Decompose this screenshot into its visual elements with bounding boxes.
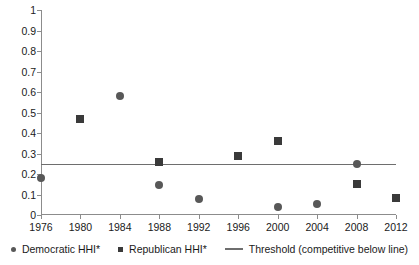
x-axis-tick <box>120 215 121 219</box>
y-axis-tick-label: 0.8 <box>21 46 36 57</box>
x-axis-tick <box>159 215 160 219</box>
y-axis-tick <box>37 92 41 93</box>
y-axis-tick-label: 0.3 <box>21 148 36 159</box>
legend-item-label: Threshold (competitive below line) <box>249 243 408 255</box>
x-axis-tick-label: 2004 <box>305 222 328 233</box>
y-axis-tick <box>37 113 41 114</box>
y-axis-tick <box>37 72 41 73</box>
data-point <box>313 200 321 208</box>
data-point <box>392 194 400 202</box>
data-point <box>234 152 242 160</box>
y-axis-tick-label: 0.7 <box>21 66 36 77</box>
x-axis-tick-label: 1984 <box>108 222 131 233</box>
plot-area: 00.10.20.30.40.50.60.70.80.91 1976198019… <box>41 10 396 215</box>
y-axis-tick-label: 0.5 <box>21 107 36 118</box>
y-axis-tick <box>37 154 41 155</box>
legend-circle-icon <box>11 247 16 252</box>
y-axis-tick <box>37 31 41 32</box>
y-axis-tick-label: 1 <box>30 5 36 16</box>
y-axis-tick <box>37 195 41 196</box>
y-axis-tick <box>37 10 41 11</box>
x-axis-tick <box>396 215 397 219</box>
x-axis-tick-label: 1988 <box>148 222 171 233</box>
x-axis-tick-label: 2012 <box>384 222 407 233</box>
legend-line-icon <box>225 248 243 250</box>
x-axis-tick-label: 1976 <box>29 222 52 233</box>
y-axis-tick-label: 0.4 <box>21 128 36 139</box>
y-axis-tick-label: 0.2 <box>21 169 36 180</box>
y-axis-tick <box>37 51 41 52</box>
chart-legend: Democratic HHI*Republican HHI*Threshold … <box>0 238 419 260</box>
scatter-chart: 00.10.20.30.40.50.60.70.80.91 1976198019… <box>0 0 419 265</box>
x-axis-tick <box>199 215 200 219</box>
data-point <box>274 137 282 145</box>
threshold-line <box>41 164 396 165</box>
y-axis-tick-label: 0 <box>30 210 36 221</box>
legend-item: Threshold (competitive below line) <box>225 243 408 255</box>
x-axis-tick <box>278 215 279 219</box>
y-axis-tick <box>37 133 41 134</box>
data-point <box>155 181 163 189</box>
x-axis-tick-label: 1996 <box>227 222 250 233</box>
x-axis-tick-label: 2000 <box>266 222 289 233</box>
data-point <box>353 180 361 188</box>
x-axis-tick <box>238 215 239 219</box>
legend-item: Democratic HHI* <box>11 243 100 255</box>
x-axis-tick <box>357 215 358 219</box>
y-axis-line <box>41 10 42 215</box>
data-point <box>37 174 45 182</box>
y-axis-tick-label: 0.1 <box>21 189 36 200</box>
x-axis-tick-label: 1980 <box>69 222 92 233</box>
legend-item: Republican HHI* <box>118 243 207 255</box>
data-point <box>155 158 163 166</box>
y-axis-tick-label: 0.6 <box>21 87 36 98</box>
x-axis-tick-label: 1992 <box>187 222 210 233</box>
y-axis-tick-label: 0.9 <box>21 25 36 36</box>
x-axis-tick-label: 2008 <box>345 222 368 233</box>
x-axis-tick <box>80 215 81 219</box>
data-point <box>76 115 84 123</box>
legend-item-label: Democratic HHI* <box>22 243 100 255</box>
data-point <box>274 203 282 211</box>
legend-square-icon <box>118 247 123 252</box>
x-axis-tick <box>317 215 318 219</box>
x-axis-tick <box>41 215 42 219</box>
data-point <box>195 195 203 203</box>
data-point <box>116 92 124 100</box>
legend-item-label: Republican HHI* <box>129 243 207 255</box>
data-point <box>353 160 361 168</box>
x-axis-line <box>41 214 396 215</box>
